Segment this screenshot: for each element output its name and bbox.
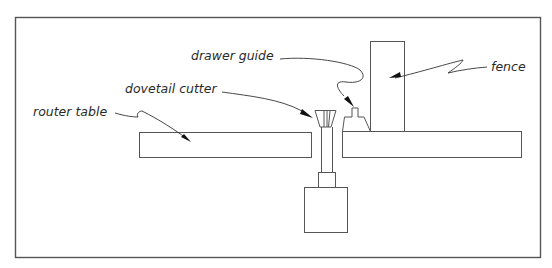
arrow-drawer-guide <box>344 96 354 107</box>
label-drawer-guide: drawer guide <box>191 48 274 63</box>
label-router-table: router table <box>33 104 107 119</box>
router-table-diagram: router table dovetail cutter drawer guid… <box>0 0 552 268</box>
router-table-left <box>140 133 312 158</box>
arrow-dovetail-cutter <box>300 109 313 118</box>
router-motor <box>305 188 348 233</box>
leader-dovetail-cutter <box>222 92 302 111</box>
router-collet <box>319 173 336 188</box>
dovetail-cutter <box>315 111 336 128</box>
router-table-right <box>343 132 522 158</box>
cutter-flute <box>329 111 331 127</box>
label-fence: fence <box>491 59 526 74</box>
drawer-guide <box>343 108 371 132</box>
leader-drawer-guide <box>280 58 363 96</box>
leader-fence <box>395 60 487 78</box>
leader-router-table <box>115 111 186 138</box>
label-dovetail-cutter: dovetail cutter <box>125 81 217 96</box>
arrow-fence <box>389 72 401 78</box>
diagram-frame <box>16 18 541 258</box>
fence <box>371 42 405 132</box>
